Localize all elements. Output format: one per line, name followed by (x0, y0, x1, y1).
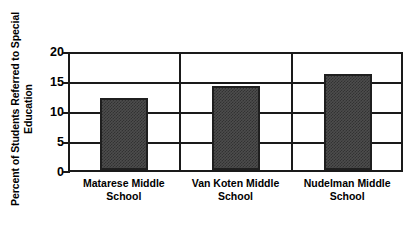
x-category-label-3-line1: Nudelman Middle (304, 177, 391, 189)
category-separator-2 (291, 54, 293, 170)
x-axis-category-labels: Matarese Middle School Van Koten Middle … (68, 177, 403, 217)
y-axis-title-line2: Education (22, 12, 35, 206)
y-tick-label-0: 0 (38, 166, 64, 178)
y-axis-title-line1: Percent of Students Referred to Special (9, 12, 21, 206)
plot-area (68, 52, 403, 172)
x-category-label-1: Matarese Middle School (68, 177, 180, 217)
y-tick-label-5: 5 (38, 136, 64, 148)
x-category-label-1-line1: Matarese Middle (83, 177, 165, 189)
bar-matarese-middle-school (100, 98, 148, 170)
x-category-label-3: Nudelman Middle School (291, 177, 403, 217)
x-category-label-2-line1: Van Koten Middle (192, 177, 280, 189)
y-tick-label-20: 20 (38, 46, 64, 58)
x-category-label-1-line2: School (68, 190, 180, 203)
y-tick-label-15: 15 (38, 76, 64, 88)
bar-van-koten-middle-school (212, 86, 260, 170)
bar-nudelman-middle-school (324, 74, 372, 170)
category-separator-1 (179, 54, 181, 170)
x-category-label-3-line2: School (291, 190, 403, 203)
bar-chart: Percent of Students Referred to Special … (0, 0, 413, 225)
x-category-label-2: Van Koten Middle School (180, 177, 292, 217)
x-category-label-2-line2: School (180, 190, 292, 203)
y-axis-tick-labels: 20 15 10 5 0 (36, 0, 64, 225)
y-tick-label-10: 10 (38, 106, 64, 118)
